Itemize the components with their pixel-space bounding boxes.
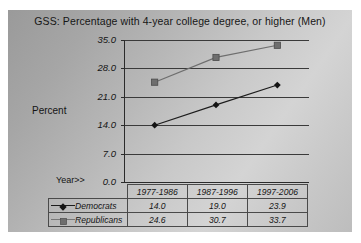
- table-cell: 24.6: [127, 213, 187, 227]
- table-header-row: 1977-1986 1987-1996 1997-2006: [49, 185, 308, 199]
- data-point-republicans-1: [213, 54, 219, 60]
- data-point-democrats-0: [151, 122, 158, 129]
- y-tick-label: 28.0: [68, 62, 116, 73]
- y-tick-label: 7.0: [68, 148, 116, 159]
- legend-label: Democrats: [75, 201, 117, 211]
- y-tick-label: 35.0: [68, 34, 116, 45]
- legend-label: Republicans: [75, 215, 122, 225]
- data-point-republicans-0: [152, 79, 158, 85]
- table-cell: 30.7: [187, 213, 247, 227]
- table-cell: 19.0: [187, 199, 247, 213]
- chart-container: GSS: Percentage with 4-year college degr…: [8, 10, 352, 232]
- table-row: Republicans 24.6 30.7 33.7: [49, 213, 308, 227]
- y-tick-label: 21.0: [68, 91, 116, 102]
- table-column-header: 1997-2006: [247, 185, 307, 199]
- legend-item-republicans: Republicans: [49, 213, 128, 227]
- legend-item-democrats: Democrats: [49, 199, 128, 213]
- table-cell: 33.7: [247, 213, 307, 227]
- table-corner-cell: [49, 185, 128, 199]
- table-cell: 23.9: [247, 199, 307, 213]
- table-column-header: 1987-1996: [187, 185, 247, 199]
- table-row: Democrats 14.0 19.0 23.9: [49, 199, 308, 213]
- series-plot: [124, 40, 308, 182]
- legend-marker-square-icon: [51, 215, 75, 224]
- data-point-republicans-2: [274, 42, 280, 48]
- y-tick-label: 14.0: [68, 119, 116, 130]
- data-point-democrats-1: [213, 102, 220, 109]
- table-cell: 14.0: [127, 199, 187, 213]
- data-point-democrats-2: [274, 82, 281, 89]
- data-legend-table: 1977-1986 1987-1996 1997-2006 Democrats …: [48, 184, 308, 227]
- series-line-republicans: [155, 45, 278, 82]
- legend-marker-diamond-icon: [51, 201, 75, 210]
- table-column-header: 1977-1986: [127, 185, 187, 199]
- y-tick: [121, 182, 125, 183]
